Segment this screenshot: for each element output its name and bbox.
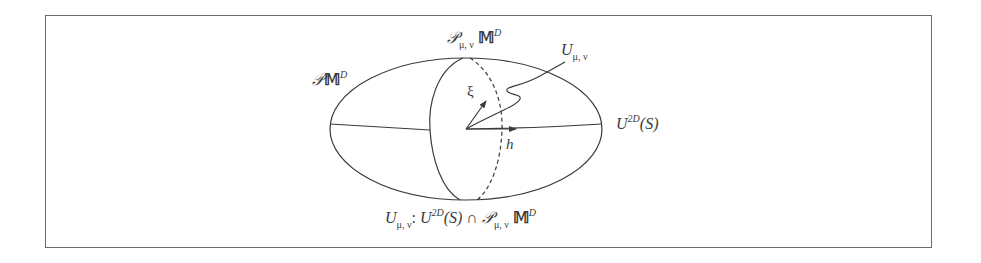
meridian-front	[430, 58, 463, 200]
subscript-mu-nu: μ, ν	[459, 39, 474, 50]
intersection-symbol: ∩	[466, 209, 478, 226]
equator-right	[466, 124, 602, 129]
u-base: U	[616, 115, 628, 132]
subscript-mu-nu: μ, ν	[494, 219, 509, 230]
script-p: 𝒫	[447, 29, 459, 46]
superscript-d: D	[529, 207, 536, 218]
subscript-mu-nu: μ, ν	[573, 51, 588, 62]
caption-formula: Uμ, ν: U2D(S) ∩ 𝒫μ, ν 𝕄D	[385, 210, 536, 226]
superscript-d: D	[340, 69, 347, 80]
label-surface: 𝒫𝕄D	[312, 72, 347, 88]
equator-left	[330, 124, 430, 130]
superscript-2d: 2D	[628, 113, 640, 124]
xi-symbol: ξ	[467, 83, 474, 99]
u-base: U	[561, 41, 573, 58]
vector-xi-arrow	[466, 101, 486, 129]
label-curve: Uμ, ν	[561, 42, 587, 58]
blackboard-m: 𝕄	[513, 209, 529, 226]
arg-s: (S)	[444, 209, 463, 226]
superscript-2d: 2D	[431, 207, 443, 218]
label-h: h	[506, 137, 514, 152]
blackboard-m: 𝕄	[478, 29, 494, 46]
curve-u-mu-nu	[466, 62, 565, 129]
label-xi: ξ	[467, 84, 474, 99]
subscript-mu-nu: μ, ν	[397, 219, 412, 230]
arg-s: (S)	[640, 115, 659, 132]
label-plane: U2D(S)	[616, 116, 658, 132]
script-p: 𝒫	[482, 209, 494, 226]
colon: :	[411, 209, 415, 226]
superscript-d: D	[494, 27, 501, 38]
u-base: U	[420, 209, 432, 226]
u-base: U	[385, 209, 397, 226]
script-p: 𝒫	[312, 71, 324, 88]
blackboard-m: 𝕄	[324, 71, 340, 88]
h-symbol: h	[506, 136, 514, 152]
label-meridian-section: 𝒫μ, ν 𝕄D	[447, 30, 501, 46]
